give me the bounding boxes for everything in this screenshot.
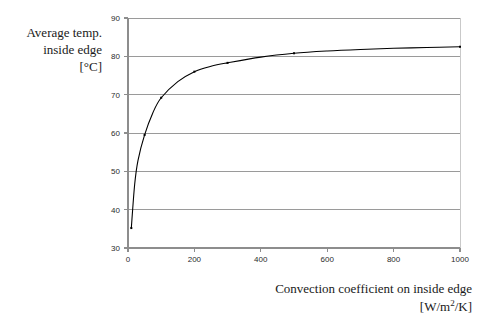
x-axis-title-line-1: Convection coefficient on inside edge <box>200 280 472 298</box>
x-tick-label-800: 800 <box>387 255 401 264</box>
x-axis-title: Convection coefficient on inside edge [W… <box>200 280 472 316</box>
series-line <box>131 47 460 228</box>
y-tick-label-90: 90 <box>111 14 120 23</box>
data-point-marker <box>293 52 295 54</box>
y-tick-label-60: 60 <box>111 129 120 138</box>
y-tick-label-40: 40 <box>111 206 120 215</box>
data-point-marker <box>160 97 162 99</box>
x-tick-label-400: 400 <box>254 255 268 264</box>
y-tick-label-80: 80 <box>111 52 120 61</box>
y-tick-label-70: 70 <box>111 91 120 100</box>
plot-area: 30405060708090 02004006008001000 <box>0 0 484 328</box>
y-tick-label-50: 50 <box>111 167 120 176</box>
data-point-markers <box>130 46 461 229</box>
data-point-marker <box>227 62 229 64</box>
data-point-marker <box>193 71 195 73</box>
y-tick-group: 30405060708090 <box>111 14 128 253</box>
y-tick-label-30: 30 <box>111 244 120 253</box>
data-point-marker <box>459 46 461 48</box>
x-tick-label-1000: 1000 <box>451 255 469 264</box>
data-point-marker <box>130 227 132 229</box>
x-tick-label-600: 600 <box>321 255 335 264</box>
chart-figure: Average temp. inside edge [°C] 304050607… <box>0 0 484 328</box>
data-series-curve <box>131 47 460 228</box>
x-tick-group: 02004006008001000 <box>126 248 470 264</box>
x-tick-label-0: 0 <box>126 255 131 264</box>
data-point-marker <box>144 134 146 136</box>
x-tick-label-200: 200 <box>188 255 202 264</box>
x-axis-title-units: [W/m2/K] <box>200 298 472 316</box>
